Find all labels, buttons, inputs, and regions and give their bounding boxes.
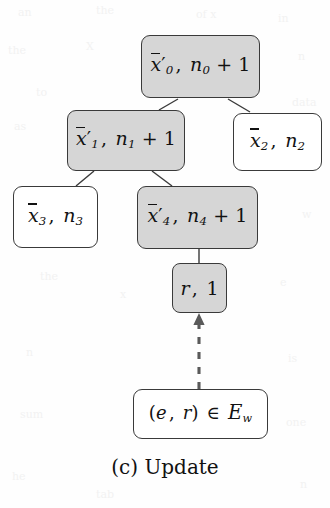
count-index-2: 2 bbox=[297, 139, 305, 153]
paren-close: ) bbox=[191, 402, 198, 423]
edge-set-symbol: E bbox=[228, 401, 243, 424]
bleed-text-5: X bbox=[86, 40, 94, 53]
mean-index-1: 1 bbox=[91, 138, 99, 152]
bleed-text-4: the bbox=[8, 44, 26, 57]
input-node-label: (e, r) ∈ Ew bbox=[149, 403, 252, 424]
edge-root-to-child-left bbox=[159, 99, 178, 110]
bleed-text-14: e bbox=[280, 276, 287, 289]
count-symbol-3: n bbox=[63, 204, 75, 226]
element-of-symbol: ∈ bbox=[204, 402, 222, 423]
count-symbol-2: n bbox=[285, 129, 297, 151]
tree-node-root[interactable]: x′0, n0 + 1 bbox=[141, 35, 260, 98]
bleed-text-6: n bbox=[298, 50, 305, 63]
bleed-text-17: sum bbox=[20, 408, 43, 421]
figure-caption: (c) Update bbox=[0, 455, 330, 479]
bleed-text-13: x bbox=[120, 288, 126, 301]
count-increment-1: + 1 bbox=[142, 127, 176, 149]
tree-node-grandchild-right-label: x′4, n4 + 1 bbox=[147, 206, 247, 228]
arrowhead-icon bbox=[193, 313, 204, 325]
comma-4: , bbox=[170, 204, 181, 226]
bleed-text-18: one bbox=[286, 416, 306, 429]
tree-node-child-left-label: x′1, n1 + 1 bbox=[76, 129, 176, 151]
bleed-text-11: w bbox=[302, 208, 311, 221]
pair-comma: , bbox=[167, 402, 177, 423]
edge-set-subscript: w bbox=[243, 412, 253, 425]
bleed-text-2: of x bbox=[196, 8, 216, 21]
bleed-text-3: in bbox=[278, 12, 289, 25]
count-index-0: 0 bbox=[202, 64, 210, 78]
bleed-text-15: n bbox=[26, 346, 33, 359]
mean-bar-2: x bbox=[250, 131, 261, 150]
leaf-count: 1 bbox=[206, 277, 218, 299]
bleed-text-1: the bbox=[96, 4, 114, 17]
count-symbol-1: n bbox=[116, 127, 128, 149]
edge-child-left-to-grandchild-left bbox=[76, 171, 94, 186]
count-index-3: 3 bbox=[75, 214, 83, 228]
count-symbol-0: n bbox=[190, 53, 202, 75]
mean-bar-3: x bbox=[28, 206, 39, 225]
count-increment-4: + 1 bbox=[213, 204, 247, 226]
tree-node-root-label: x′0, n0 + 1 bbox=[150, 55, 250, 77]
leaf-value-symbol: r bbox=[180, 277, 189, 299]
tree-node-new-leaf-label: r, 1 bbox=[180, 279, 218, 298]
mean-bar-0: x bbox=[150, 55, 161, 74]
tree-node-grandchild-right[interactable]: x′4, n4 + 1 bbox=[137, 186, 258, 249]
count-increment-0: + 1 bbox=[216, 53, 250, 75]
mean-bar-1: x bbox=[76, 129, 87, 148]
comma-0: , bbox=[173, 53, 184, 75]
tree-node-child-right-label: x2, n2 bbox=[250, 131, 305, 153]
bleed-text-7: to bbox=[36, 86, 47, 99]
count-symbol-4: n bbox=[187, 204, 199, 226]
paren-open: ( bbox=[149, 402, 156, 423]
tree-node-new-leaf[interactable]: r, 1 bbox=[172, 263, 227, 313]
leaf-comma: , bbox=[190, 277, 201, 299]
tree-node-grandchild-left-label: x3, n3 bbox=[28, 206, 83, 228]
edge-root-to-child-right bbox=[228, 99, 250, 112]
pair-first: e bbox=[156, 402, 167, 423]
bleed-text-8: data bbox=[292, 96, 317, 109]
bleed-text-0: an bbox=[18, 6, 32, 19]
bleed-text-16: is bbox=[288, 352, 297, 365]
comma-3: , bbox=[46, 204, 57, 226]
edge-child-left-to-grandchild-right bbox=[152, 171, 172, 186]
tree-node-child-right[interactable]: x2, n2 bbox=[233, 113, 322, 171]
count-index-4: 4 bbox=[199, 215, 207, 229]
bleed-text-12: the bbox=[40, 270, 58, 283]
bleed-text-20: tab bbox=[96, 488, 114, 501]
update-tree-figure: antheof xintheXntodataasrwthexenissumone… bbox=[0, 0, 330, 508]
bleed-text-9: as bbox=[14, 120, 26, 133]
count-index-1: 1 bbox=[128, 138, 136, 152]
comma-1: , bbox=[99, 127, 110, 149]
bleed-text-21: n bbox=[300, 478, 307, 491]
comma-2: , bbox=[268, 129, 279, 151]
tree-node-grandchild-left[interactable]: x3, n3 bbox=[13, 186, 98, 248]
tree-node-child-left[interactable]: x′1, n1 + 1 bbox=[67, 110, 185, 171]
mean-bar-4: x bbox=[147, 206, 158, 225]
input-node[interactable]: (e, r) ∈ Ew bbox=[133, 389, 268, 439]
